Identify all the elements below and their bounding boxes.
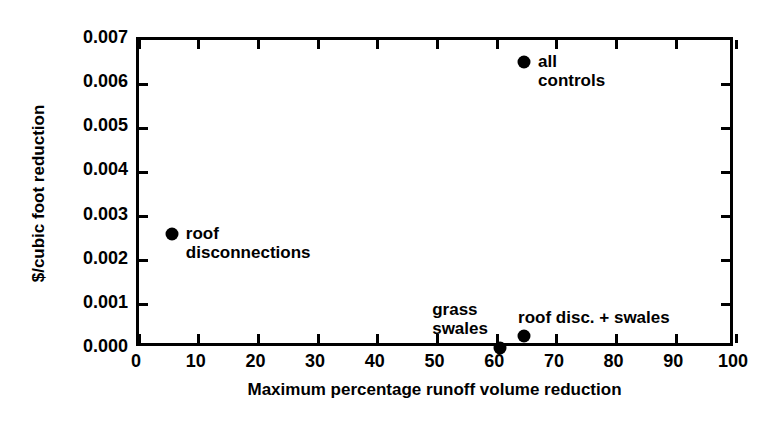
y-tick-label-0.006: 0.006	[83, 72, 128, 90]
data-label-line: controls	[538, 71, 605, 90]
y-tick-label-0.001: 0.001	[83, 293, 128, 311]
x-tick-top-60	[496, 40, 499, 49]
data-label-roof-disc-swales: roof disc. + swales	[518, 308, 670, 327]
x-tick-label-0: 0	[131, 352, 141, 370]
y-tick-right-0.004	[721, 171, 730, 174]
x-tick-label-30: 30	[305, 352, 325, 370]
y-tick-right-0.006	[721, 83, 730, 86]
x-tick-40	[376, 334, 379, 343]
x-tick-100	[735, 334, 738, 343]
x-tick-label-40: 40	[365, 352, 385, 370]
y-tick-right-0.001	[721, 303, 730, 306]
x-tick-label-20: 20	[245, 352, 265, 370]
data-label-line: disconnections	[186, 243, 311, 262]
data-label-grass-swales: grassswales	[432, 300, 488, 338]
y-tick-0.004	[139, 171, 148, 174]
x-tick-label-70: 70	[544, 352, 564, 370]
y-tick-0.006	[139, 83, 148, 86]
data-label-line: roof disc. + swales	[518, 308, 670, 327]
data-label-line: roof	[186, 224, 311, 243]
x-axis-title: Maximum percentage runoff volume reducti…	[136, 381, 733, 398]
y-axis-tick-labels: 0.0000.0010.0020.0030.0040.0050.0060.007	[0, 0, 128, 427]
x-tick-80	[615, 334, 618, 343]
x-tick-10	[197, 334, 200, 343]
data-label-line: grass	[432, 300, 488, 319]
x-tick-label-10: 10	[186, 352, 206, 370]
x-tick-70	[555, 334, 558, 343]
y-tick-right-0.003	[721, 215, 730, 218]
plot-area: roofdisconnectionsallcontrolsgrassswales…	[136, 37, 733, 346]
x-tick-top-80	[615, 40, 618, 49]
data-label-all-controls: allcontrols	[538, 52, 605, 90]
x-tick-top-30	[317, 40, 320, 49]
x-tick-top-90	[675, 40, 678, 49]
x-tick-label-60: 60	[484, 352, 504, 370]
x-tick-top-40	[376, 40, 379, 49]
x-tick-top-50	[436, 40, 439, 49]
x-tick-label-90: 90	[663, 352, 683, 370]
y-tick-label-0.005: 0.005	[83, 116, 128, 134]
data-point-roof-disc-swales[interactable]	[518, 329, 531, 342]
x-tick-30	[317, 334, 320, 343]
y-tick-label-0.003: 0.003	[83, 205, 128, 223]
y-tick-0.003	[139, 215, 148, 218]
data-point-all-controls[interactable]	[518, 56, 531, 69]
x-tick-top-70	[555, 40, 558, 49]
scatter-plot-figure: roofdisconnectionsallcontrolsgrassswales…	[0, 0, 781, 427]
x-tick-label-100: 100	[718, 352, 748, 370]
x-tick-0	[138, 334, 141, 343]
data-label-roof-disconnections: roofdisconnections	[186, 224, 311, 262]
x-tick-label-50: 50	[424, 352, 444, 370]
y-tick-0.001	[139, 303, 148, 306]
x-tick-top-20	[257, 40, 260, 49]
data-label-line: swales	[432, 319, 488, 338]
data-point-roof-disconnections[interactable]	[165, 228, 178, 241]
x-tick-90	[675, 334, 678, 343]
y-tick-right-0.002	[721, 259, 730, 262]
y-tick-0.002	[139, 259, 148, 262]
x-tick-20	[257, 334, 260, 343]
y-axis-title: $/cubic foot reduction	[30, 44, 47, 344]
x-tick-top-0	[138, 40, 141, 49]
y-tick-label-0.000: 0.000	[83, 337, 128, 355]
y-tick-right-0.005	[721, 127, 730, 130]
y-tick-label-0.004: 0.004	[83, 160, 128, 178]
y-tick-label-0.007: 0.007	[83, 28, 128, 46]
y-tick-label-0.002: 0.002	[83, 249, 128, 267]
x-tick-label-80: 80	[604, 352, 624, 370]
y-tick-0.005	[139, 127, 148, 130]
x-tick-top-10	[197, 40, 200, 49]
data-label-line: all	[538, 52, 605, 71]
x-tick-top-100	[735, 40, 738, 49]
